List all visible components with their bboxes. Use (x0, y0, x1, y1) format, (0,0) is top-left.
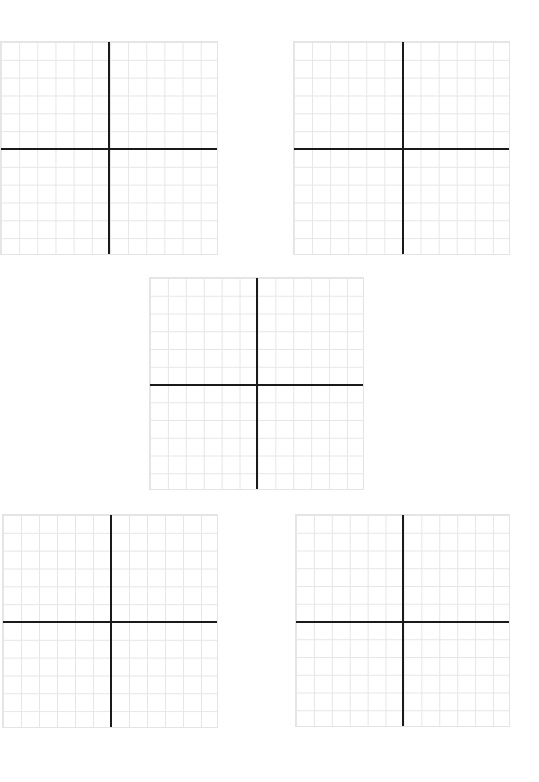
y-axis (108, 42, 110, 254)
coordinate-plane-2 (293, 41, 510, 255)
coordinate-plane-4 (2, 514, 218, 728)
y-axis (110, 515, 112, 727)
y-axis (256, 278, 258, 489)
coordinate-plane-5 (295, 514, 510, 727)
coordinate-plane-1 (0, 41, 218, 255)
y-axis (402, 42, 404, 254)
coordinate-plane-3 (149, 277, 364, 490)
y-axis (402, 515, 404, 726)
